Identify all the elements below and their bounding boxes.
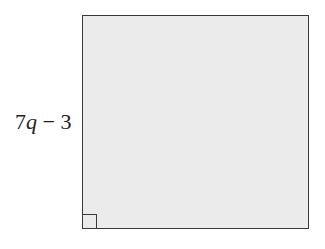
label-variable: q — [26, 109, 37, 134]
label-operator: − — [37, 109, 60, 134]
side-length-label: 7q − 3 — [15, 109, 71, 135]
label-constant: 3 — [60, 109, 71, 134]
label-coefficient: 7 — [15, 109, 26, 134]
square-shape — [82, 15, 309, 229]
right-angle-marker-icon — [83, 214, 97, 228]
